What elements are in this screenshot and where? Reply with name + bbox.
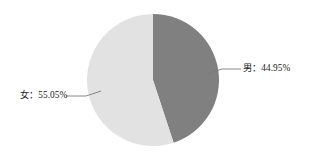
pie-chart: 男：44.95% 女：55.05% [0, 0, 310, 161]
pie-chart-canvas [0, 0, 310, 161]
pie-label-female: 女：55.05% [20, 91, 67, 100]
pie-label-male: 男：44.95% [243, 64, 290, 73]
